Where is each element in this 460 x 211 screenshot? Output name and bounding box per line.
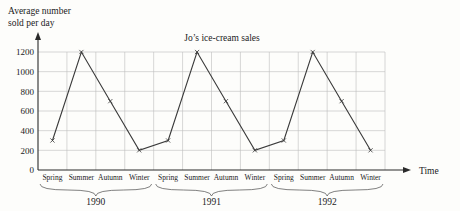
season-label: Spring [42,173,62,182]
y-tick-label: 1200 [16,47,35,57]
season-label: Summer [184,173,210,182]
season-label: Autumn [214,173,239,182]
data-point-marker [224,99,228,103]
season-label: Summer [300,173,326,182]
year-label: 1992 [318,197,337,207]
y-tick-label: 800 [21,87,35,97]
y-tick-label: 1000 [16,67,35,77]
season-label: Spring [158,173,178,182]
season-label: Summer [69,173,95,182]
season-label: Autumn [329,173,354,182]
y-tick-label: 0 [30,165,35,175]
season-label: Winter [360,173,381,182]
data-point-marker [340,99,344,103]
year-brace [271,184,383,196]
chart-title: Jo’s ice-cream sales [184,33,260,43]
year-label: 1990 [86,197,105,207]
ice-cream-sales-line-chart: Average number sold per day Jo’s ice-cre… [0,0,460,211]
y-axis-tick-labels: 020040060080010001200 [16,47,35,175]
season-label: Spring [274,173,294,182]
y-axis-title-line1: Average number [8,6,72,16]
year-brace [156,184,268,196]
x-axis-year-groups: 199019911992 [40,184,383,207]
x-axis-arrow-icon [403,167,411,173]
data-point-marker [108,99,112,103]
y-axis-title-line2: sold per day [8,18,55,28]
year-label: 1991 [202,197,221,207]
y-axis-arrow-icon [35,32,41,40]
x-axis-season-labels: SpringSummerAutumnWinterSpringSummerAutu… [42,173,381,182]
season-label: Winter [129,173,150,182]
y-tick-label: 400 [21,126,35,136]
season-label: Autumn [98,173,123,182]
x-axis-title: Time [419,166,439,176]
y-tick-label: 200 [21,146,35,156]
season-label: Winter [245,173,266,182]
year-brace [40,184,152,196]
y-tick-label: 600 [21,106,35,116]
